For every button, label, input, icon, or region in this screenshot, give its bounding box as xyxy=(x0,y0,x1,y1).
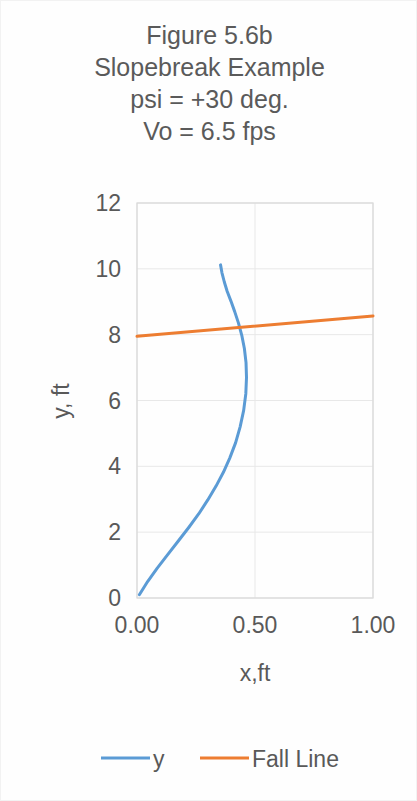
y-tick-label: 12 xyxy=(95,190,121,216)
chart-legend: yFall Line xyxy=(101,746,339,772)
plot-area-wrapper: 024681012 0.000.501.00 y, ft x,ft yFall … xyxy=(1,1,417,801)
x-axis-tick-labels: 0.000.501.00 xyxy=(115,612,396,638)
series-line-y xyxy=(139,265,246,595)
y-axis-tick-labels: 024681012 xyxy=(95,190,121,611)
legend-label-fall-line: Fall Line xyxy=(252,746,339,772)
y-tick-label: 2 xyxy=(108,519,121,545)
chart-svg: 024681012 0.000.501.00 y, ft x,ft yFall … xyxy=(1,1,417,801)
y-axis-title: y, ft xyxy=(48,383,74,419)
x-axis-title: x,ft xyxy=(240,660,271,686)
chart-figure: Figure 5.6b Slopebreak Example psi = +30… xyxy=(0,0,417,801)
y-tick-label: 10 xyxy=(95,256,121,282)
x-tick-label: 1.00 xyxy=(351,612,396,638)
y-tick-label: 0 xyxy=(108,585,121,611)
y-tick-label: 8 xyxy=(108,322,121,348)
y-tick-label: 6 xyxy=(108,388,121,414)
gridlines xyxy=(137,203,373,598)
x-tick-label: 0.00 xyxy=(115,612,160,638)
legend-label-y: y xyxy=(153,746,165,772)
x-tick-label: 0.50 xyxy=(233,612,278,638)
y-tick-label: 4 xyxy=(108,453,121,479)
